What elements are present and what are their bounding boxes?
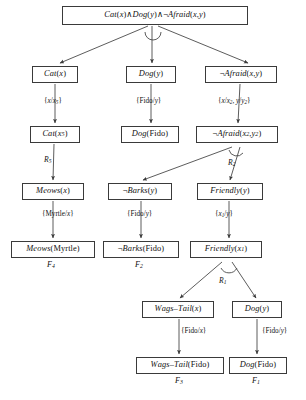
substitution-label-sub_fido_x: {Fido/x}	[181, 328, 206, 335]
rule-label-r5: R5	[44, 156, 51, 165]
edge-e_friendly_wags	[180, 262, 222, 298]
edge-e_root_cat	[60, 26, 148, 63]
edge-e_afraid22_barks	[143, 147, 232, 180]
node-friendly_x1: Friendly(x1)	[190, 241, 262, 258]
node-meows_x: Meows(x)	[22, 183, 84, 200]
substitution-label-sub_fido_y_2: {Fido/y}	[127, 211, 152, 218]
node-dog_fido_1: Dog(Fido)	[121, 126, 179, 143]
substitution-label-sub_x1_y: {x1/y}	[215, 211, 233, 218]
edge-e_cat5_meows	[53, 144, 54, 180]
node-barks_fido: ¬Barks(Fido)	[103, 241, 179, 258]
node-friendly_y: Friendly( y)	[197, 183, 263, 200]
substitution-label-sub_myrtle_x: {Myrtle/x}	[42, 211, 74, 218]
rule-label-r2: R2	[228, 159, 235, 168]
edge-e_root_afraid	[158, 26, 248, 63]
leaf-label-f4: F4	[47, 261, 55, 270]
node-afraid_xy: ¬Afraid(x, y)	[205, 66, 277, 83]
edge-e_friendly_dog	[232, 262, 256, 298]
proof-tree-diagram: Cat(x)∧Dog( y)∧¬Afraid(x, y)Cat(x)Dog( y…	[0, 0, 306, 400]
leaf-label-f2: F2	[135, 261, 143, 270]
node-dog_y_2: Dog( y)	[232, 301, 282, 318]
edge-layer	[0, 0, 306, 400]
node-root: Cat(x)∧Dog( y)∧¬Afraid(x, y)	[62, 6, 248, 25]
node-cat_x: Cat(x)	[32, 66, 78, 83]
node-wags_tail_x: Wags–Tail(x)	[142, 301, 214, 318]
substitution-label-sub_fido_y_1: {Fido/y}	[136, 98, 161, 105]
leaf-label-f1: F1	[252, 377, 260, 386]
rule-label-r1: R1	[219, 277, 226, 286]
substitution-label-sub_fido_y_3: {Fido/y}	[262, 328, 287, 335]
substitution-label-sub_x_x5: {x/x5}	[44, 98, 62, 105]
node-dog_fido_2: Dog(Fido)	[229, 357, 287, 374]
node-wags_tail_fido: Wags–Tail(Fido)	[136, 357, 224, 374]
arc-arc_afraid	[229, 150, 243, 156]
arc-arc_root	[145, 32, 161, 40]
node-meows_myrtle: Meows(Myrtle)	[11, 241, 95, 258]
leaf-label-f3: F3	[175, 377, 183, 386]
node-barks_y: ¬Barks( y)	[108, 183, 172, 200]
node-afraid_x2y2: ¬Afraid(x2, y2)	[196, 126, 278, 143]
substitution-label-sub_x_x2_y_y2: {x/x2, y/y2}	[218, 98, 251, 105]
node-cat_x5: Cat(x5)	[30, 126, 80, 143]
node-dog_y: Dog( y)	[126, 66, 176, 83]
arc-arc_friendly	[221, 268, 237, 273]
